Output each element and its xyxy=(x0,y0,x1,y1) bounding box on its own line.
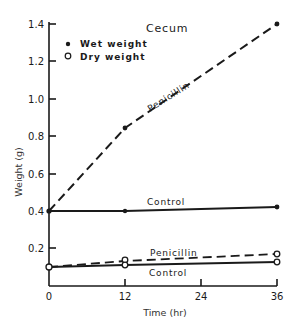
x-tick-label: 12 xyxy=(119,291,132,302)
y-tick-label: 0.6 xyxy=(28,169,44,180)
x-tick-label: 24 xyxy=(195,291,208,302)
open-circle-icon xyxy=(65,53,71,59)
y-tick-label: 1.4 xyxy=(28,19,44,30)
line-chart: 0.2 0.4 0.6 0.8 1.0 1.2 1.4 0 12 24 36 T… xyxy=(0,0,294,328)
y-tick-labels: 0.2 0.4 0.6 0.8 1.0 1.2 1.4 xyxy=(28,19,44,254)
chart-title: Cecum xyxy=(146,22,188,35)
y-axis-title: Weight (g) xyxy=(13,147,24,197)
x-tick-labels: 0 12 24 36 xyxy=(46,291,284,302)
x-axis-title: Time (hr) xyxy=(142,307,187,318)
legend: Wet weight Dry weight xyxy=(65,39,148,62)
x-tick-label: 0 xyxy=(46,291,52,302)
series-penicillin-wet xyxy=(49,22,279,211)
annotation-control-dry: Control xyxy=(149,268,187,278)
legend-label-dry: Dry weight xyxy=(80,52,146,62)
y-tick-label: 0.2 xyxy=(28,243,44,254)
filled-circle-icon xyxy=(66,42,70,46)
y-tick-label: 0.4 xyxy=(28,206,44,217)
annotation-penicillin-dry: Penicillin xyxy=(150,248,198,258)
legend-label-wet: Wet weight xyxy=(80,39,148,49)
y-tick-label: 0.8 xyxy=(28,131,44,142)
y-tick-label: 1.2 xyxy=(28,56,44,67)
annotation-penicillin-wet: Penicillin xyxy=(146,80,192,114)
y-tick-label: 1.0 xyxy=(28,94,44,105)
annotation-control-wet: Control xyxy=(147,197,185,207)
x-tick-label: 36 xyxy=(271,291,284,302)
